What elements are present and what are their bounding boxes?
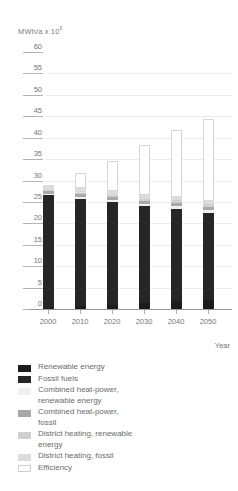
bar-segment: [203, 300, 214, 309]
bar-segment: [171, 200, 182, 203]
x-tick-mark: [80, 310, 81, 314]
y-tick-label: 15: [20, 236, 42, 244]
bar-segment: [75, 173, 86, 188]
bar-segment: [43, 194, 54, 195]
bar-segment: [139, 201, 150, 204]
legend-item[interactable]: Efficiency: [18, 463, 228, 474]
legend-item[interactable]: District heating, fossil: [18, 451, 228, 462]
bar-segment: [75, 188, 86, 192]
bar-segment: [107, 305, 118, 309]
bar-segment: [107, 202, 118, 305]
legend-item[interactable]: District heating, renewable energy: [18, 429, 228, 450]
bar-segment: [171, 197, 182, 200]
bar-segment: [171, 206, 182, 209]
bar-segment: [203, 210, 214, 213]
y-tick-label: 45: [20, 107, 42, 115]
y-tick-label: 40: [20, 129, 42, 137]
y-tick-label: 5: [20, 279, 42, 287]
bar-segment: [203, 207, 214, 210]
y-tick-rule: [23, 245, 43, 246]
y-tick-label: 20: [20, 214, 42, 222]
plot-area: 0510152025303540455055602000201020202030…: [20, 46, 232, 314]
x-tick-mark: [112, 310, 113, 314]
x-axis-caption: Year: [215, 341, 230, 350]
legend-item[interactable]: Renewable energy: [18, 362, 228, 373]
chart-legend: Renewable energyFossil fuelsCombined hea…: [18, 362, 228, 474]
legend-swatch-icon: [18, 388, 31, 395]
y-axis-unit-text: MWh/a x 10: [18, 27, 60, 36]
x-tick-label-2050: 2050: [188, 317, 228, 326]
x-axis-baseline: [30, 309, 232, 310]
x-tick-mark: [176, 310, 177, 314]
x-tick-mark: [48, 310, 49, 314]
y-tick-rule: [23, 95, 43, 96]
legend-swatch-icon: [18, 432, 31, 439]
bar-segment: [43, 191, 54, 194]
legend-label: Renewable energy: [38, 362, 105, 373]
bar-segment: [43, 308, 54, 309]
y-gridline: [46, 95, 232, 96]
y-tick-rule: [23, 181, 43, 182]
bar-segment: [203, 213, 214, 300]
legend-item[interactable]: Fossil fuels: [18, 374, 228, 385]
legend-label: Combined heat-power, fossil: [38, 407, 119, 428]
y-tick-rule: [23, 266, 43, 267]
bar-2040[interactable]: [171, 308, 182, 309]
bar-segment: [203, 201, 214, 204]
bar-segment: [107, 197, 118, 200]
legend-label: Efficiency: [38, 463, 72, 474]
y-tick-label: 0: [20, 300, 42, 308]
y-tick-label: 50: [20, 86, 42, 94]
bar-segment: [171, 301, 182, 309]
y-gridline: [46, 73, 232, 74]
bar-segment: [107, 200, 118, 202]
legend-label: Fossil fuels: [38, 374, 78, 385]
x-tick-mark: [208, 310, 209, 314]
bar-segment: [171, 209, 182, 302]
energy-stacked-bar-chart: MWh/a x 106 0510152025303540455055602000…: [0, 0, 238, 491]
bar-segment: [43, 185, 54, 190]
bar-segment: [75, 199, 86, 307]
bar-segment: [107, 191, 118, 195]
legend-swatch-icon: [18, 465, 31, 472]
y-tick-rule: [23, 159, 43, 160]
y-tick-rule: [23, 73, 43, 74]
bar-segment: [75, 197, 86, 198]
bar-segment: [203, 119, 214, 200]
y-tick-label: 25: [20, 193, 42, 201]
bar-segment: [139, 145, 150, 194]
bar-segment: [139, 206, 150, 303]
bar-segment: [171, 130, 182, 196]
y-tick-label: 60: [20, 43, 42, 51]
bar-segment: [203, 204, 214, 207]
bar-segment: [43, 195, 54, 308]
x-tick-mark: [144, 310, 145, 314]
y-axis-unit-caption: MWh/a x 106: [18, 25, 62, 36]
y-tick-label: 10: [20, 257, 42, 265]
legend-label: District heating, fossil: [38, 451, 114, 462]
y-tick-rule: [23, 223, 43, 224]
legend-item[interactable]: Combined heat-power, fossil: [18, 407, 228, 428]
y-gridline: [46, 116, 232, 117]
bar-2050[interactable]: [203, 308, 214, 309]
y-tick-rule: [23, 52, 43, 53]
bar-2010[interactable]: [75, 308, 86, 309]
bar-segment: [107, 161, 118, 191]
legend-swatch-icon: [18, 410, 31, 417]
legend-label: District heating, renewable energy: [38, 429, 132, 450]
legend-item[interactable]: Combined heat-power, renewable energy: [18, 385, 228, 406]
bar-segment: [171, 203, 182, 206]
legend-label: Combined heat-power, renewable energy: [38, 385, 119, 406]
bar-segment: [139, 204, 150, 206]
legend-swatch-icon: [18, 454, 31, 461]
y-tick-rule: [23, 202, 43, 203]
y-tick-rule: [23, 138, 43, 139]
bar-2000[interactable]: [43, 308, 54, 309]
y-axis-unit-exponent: 6: [60, 25, 63, 31]
bar-segment: [75, 194, 86, 197]
bar-segment: [75, 193, 86, 195]
bar-2030[interactable]: [139, 308, 150, 309]
y-tick-rule: [23, 116, 43, 117]
bar-2020[interactable]: [107, 308, 118, 309]
y-tick-label: 30: [20, 172, 42, 180]
